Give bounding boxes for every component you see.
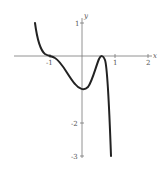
y-tick-label: -3 — [71, 153, 78, 161]
plot: -1 1 2 x 1 -2 -3 y — [0, 0, 167, 169]
y-tick-label: -2 — [71, 120, 78, 128]
x-tick-label: 1 — [113, 59, 117, 67]
x-axis-label: x — [153, 52, 157, 60]
x-tick-label: 2 — [146, 59, 150, 67]
x-tick-label: -1 — [46, 59, 53, 67]
y-tick-label: 1 — [75, 20, 79, 28]
y-axis-label: y — [83, 12, 89, 20]
function-curve — [35, 23, 111, 156]
